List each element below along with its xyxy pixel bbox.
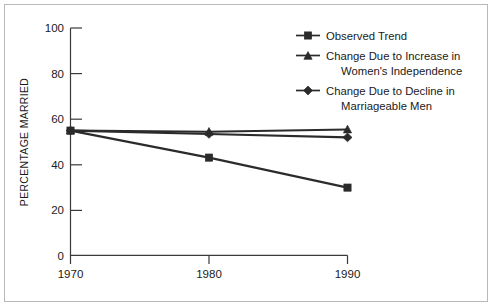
y-tick-label-40: 40 (51, 159, 64, 171)
legend-item-observed-trend[interactable]: Observed Trend (296, 30, 407, 42)
y-tick-label-20: 20 (51, 204, 64, 216)
chart-legend: Observed Trend Change Due to Increase in… (296, 30, 462, 112)
x-tick-label-1970: 1970 (58, 268, 84, 280)
legend-label-marriageable-men-line2: Marriageable Men (341, 100, 432, 112)
legend-diamond-icon (304, 86, 313, 95)
x-tick-label-1980: 1980 (196, 268, 222, 280)
legend-label-womens-independence-line1: Change Due to Increase in (326, 50, 460, 62)
y-tick-label-0: 0 (58, 250, 64, 262)
y-tick-label-100: 100 (45, 22, 64, 34)
y-tick-label-60: 60 (51, 113, 64, 125)
legend-item-womens-independence[interactable]: Change Due to Increase in Women's Indepe… (296, 50, 462, 77)
chart-figure: 100 80 60 40 20 0 1970 1980 1990 PERCENT… (0, 0, 492, 306)
y-tick-label-80: 80 (51, 68, 64, 80)
x-tick-label-1990: 1990 (335, 268, 361, 280)
legend-item-marriageable-men[interactable]: Change Due to Decline in Marriageable Me… (296, 85, 455, 112)
legend-label-marriageable-men-line1: Change Due to Decline in (326, 85, 455, 97)
legend-label-observed-trend: Observed Trend (326, 30, 407, 42)
y-axis-ticks (71, 28, 83, 210)
legend-label-womens-independence-line2: Women's Independence (341, 65, 462, 77)
y-axis-title: PERCENTAGE MARRIED (18, 78, 30, 206)
legend-square-icon (304, 32, 311, 39)
x-axis-ticks (71, 255, 348, 264)
line-chart: 100 80 60 40 20 0 1970 1980 1990 PERCENT… (0, 0, 492, 306)
